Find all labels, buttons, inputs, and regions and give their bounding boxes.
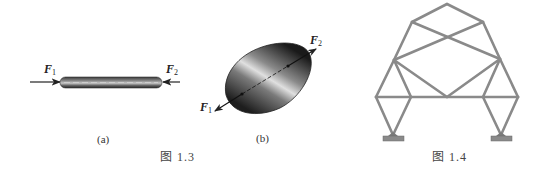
right-support [491, 132, 512, 141]
force-f2-label-b: F2 [309, 33, 322, 48]
figure-1-3b-body [215, 43, 316, 114]
left-support [383, 132, 404, 141]
figure-1-3-caption: 图 1.3 [160, 150, 195, 164]
figure-canvas: F1 F2 (a) F2 F1 (b) 图 1.3 [0, 0, 547, 173]
figure-1-4-caption: 图 1.4 [432, 150, 467, 164]
force-f2-label: F2 [165, 62, 178, 77]
panel-a-label: (a) [97, 133, 110, 146]
figure-1-4-truss [376, 4, 518, 135]
panel-b-label: (b) [256, 132, 269, 145]
figure-1-3a-rod [30, 77, 180, 88]
force-f1-label-b: F1 [199, 100, 212, 115]
force-f1-label: F1 [43, 62, 56, 77]
